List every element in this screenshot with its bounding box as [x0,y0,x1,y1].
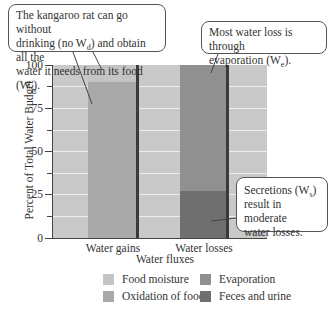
x-axis [45,238,267,239]
callout-gains-line3: water it needs from its food (Wf). [16,64,158,92]
callout-evaporation: Most water loss is through evaporation (… [201,21,327,54]
gridline [53,130,267,131]
bar-water-losses [180,65,226,238]
legend-item-evaporation: Evaporation [200,273,275,285]
bar-segment-oxidation-of-food [88,82,136,238]
legend-swatch-oxidation-of-food [103,291,114,302]
callout-gains-line2: drinking (no Wd) and obtain all the [16,36,158,64]
legend-swatch-evaporation [200,274,211,285]
gridline [53,151,267,152]
callout-evap-line2: evaporation (We). [209,53,319,67]
callout-secretions-line1: Secretions (Ws) [244,183,320,197]
callout-kangaroo-rat: The kangaroo rat can go without drinking… [8,4,166,52]
gridline [53,194,267,195]
gridline [53,216,267,217]
gridline [53,173,267,174]
y-tick [45,194,53,195]
legend-label: Evaporation [219,273,275,285]
legend-label: Food moisture [122,273,189,285]
legend-item-feces-and-urine: Feces and urine [200,290,291,302]
bar-shadow [226,65,229,238]
bar-segment-feces-and-urine [180,191,226,238]
callout-secretions: Secretions (Ws) result in moderate water… [236,177,328,232]
x-axis-label: Water fluxes [115,253,215,265]
legend-label: Oxidation of food [122,290,204,302]
legend-swatch-food-moisture [103,274,114,285]
callout-evap-line1: Most water loss is through [209,25,319,53]
y-tick-minor [47,173,53,174]
legend-swatch-feces-and-urine [200,291,211,302]
y-tick [45,108,53,109]
y-tick-minor [47,130,53,131]
y-tick [45,151,53,152]
legend-label: Feces and urine [219,290,291,302]
bar-segment-evaporation [180,65,226,191]
legend-item-oxidation-of-food: Oxidation of food [103,290,204,302]
callout-gains-line1: The kangaroo rat can go without [16,8,158,36]
y-tick-minor [47,216,53,217]
callout-secretions-line2: result in moderate [244,197,320,225]
legend-item-food-moisture: Food moisture [103,273,189,285]
callout-secretions-line3: water losses. [244,225,320,239]
gridline [53,108,267,109]
